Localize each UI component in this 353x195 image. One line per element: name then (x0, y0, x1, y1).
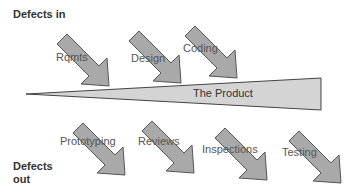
input-label-rqmts: Rqmts (56, 51, 88, 63)
output-label-reviews: Reviews (138, 135, 180, 147)
defects-out-line2: out (13, 173, 53, 186)
arrow-reviews (142, 121, 194, 173)
input-label-design: Design (131, 52, 165, 64)
output-label-prototyping: Prototyping (60, 135, 116, 147)
defects-diagram (0, 0, 353, 195)
arrow-prototyping (73, 123, 125, 175)
output-label-testing: Testing (282, 146, 317, 158)
product-label: The Product (193, 87, 253, 99)
defects-in-heading: Defects in (13, 8, 66, 21)
defects-out-line1: Defects (13, 160, 53, 173)
defects-out-heading: Defects out (13, 160, 53, 186)
input-label-coding: Coding (183, 42, 218, 54)
output-label-inspections: Inspections (202, 143, 258, 155)
